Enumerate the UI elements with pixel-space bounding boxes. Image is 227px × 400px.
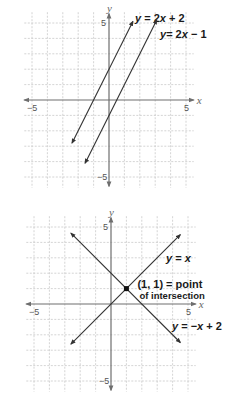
series-label: y= 2x − 1 <box>159 28 207 40</box>
y-axis-label: y <box>106 2 112 14</box>
tick-label-y-neg: −5 <box>99 376 109 386</box>
tick-label-x-neg: −5 <box>27 103 37 113</box>
tick-label-x-pos: 5 <box>186 307 191 317</box>
x-axis-label: x <box>196 94 202 106</box>
series-label: y = 2x + 2 <box>134 12 185 24</box>
series-label: y = x <box>165 252 192 264</box>
point-label-line1: (1, 1) = point <box>137 278 202 290</box>
intersection-point <box>124 286 129 291</box>
tick-label-y-neg: −5 <box>97 172 107 182</box>
series-line <box>85 20 157 163</box>
graph-parallel-lines: xy−555−5y = 2x + 2y= 2x − 1 <box>24 2 206 188</box>
tick-label-x-neg: −5 <box>29 307 39 317</box>
tick-label-y-pos: 5 <box>103 222 108 232</box>
graph-intersecting-lines: xy−555−5y = xy = −x + 2(1, 1) = pointof … <box>26 206 222 392</box>
point-label-line2: of intersection <box>139 290 205 301</box>
series-line <box>72 21 133 143</box>
series-label: y = −x + 2 <box>171 320 222 332</box>
tick-label-y-pos: 5 <box>101 18 106 28</box>
y-axis-label: y <box>108 206 114 218</box>
chart-figure: xy−555−5y = 2x + 2y= 2x − 1 xy−555−5y = … <box>0 0 227 400</box>
tick-label-x-pos: 5 <box>184 103 189 113</box>
